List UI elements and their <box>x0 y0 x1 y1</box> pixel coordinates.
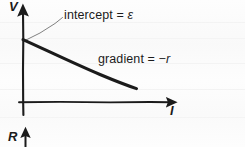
gradient-annotation-text: gradient = <box>98 52 159 66</box>
y-axis-label: V <box>9 0 18 13</box>
graph-drawing <box>0 0 245 147</box>
gradient-annotation: gradient = −r <box>98 53 170 66</box>
intercept-leader-line <box>25 18 63 41</box>
x-axis-line <box>19 102 170 103</box>
figure-canvas: V I R intercept = ε gradient = −r <box>0 0 245 147</box>
x-axis-label: I <box>170 104 174 117</box>
second-figure-y-axis-label: R <box>8 130 17 143</box>
gradient-symbol: −r <box>159 52 171 66</box>
intercept-annotation: intercept = ε <box>64 9 133 22</box>
intercept-annotation-text: intercept = <box>64 8 127 22</box>
intercept-symbol: ε <box>127 8 133 22</box>
